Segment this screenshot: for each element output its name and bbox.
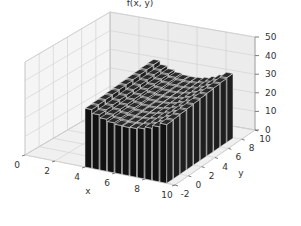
y-tick-label: 4 (222, 162, 228, 172)
y-tick-label: 6 (235, 152, 241, 162)
x-tick-label: 8 (134, 184, 140, 194)
z-tick-label: 30 (265, 69, 277, 79)
y-tick-label: 10 (259, 134, 271, 144)
z-tick-label: 0 (265, 125, 271, 135)
x-tick-label: 6 (104, 178, 110, 188)
z-tick-label: 10 (265, 106, 277, 116)
z-axis-label: f(x, y) (127, 0, 154, 8)
y-tick-label: 0 (195, 180, 201, 190)
bar3d-plot: 0246810x-20246810y01020304050f(x, y) (0, 0, 301, 226)
x-tick-label: 10 (161, 190, 173, 200)
y-tick-label: 2 (209, 171, 215, 181)
y-tick-label: -2 (181, 189, 190, 199)
z-tick-label: 50 (265, 32, 277, 42)
x-tick-label: 4 (74, 172, 80, 182)
x-tick-label: 2 (44, 166, 50, 176)
x-axis-label: x (85, 186, 91, 196)
x-tick-label: 0 (14, 160, 20, 170)
chart-figure: 0246810x-20246810y01020304050f(x, y) (0, 0, 301, 226)
z-tick-label: 40 (265, 51, 277, 61)
y-axis-label: y (238, 168, 244, 178)
z-tick-label: 20 (265, 88, 277, 98)
y-tick-label: 8 (249, 143, 255, 153)
